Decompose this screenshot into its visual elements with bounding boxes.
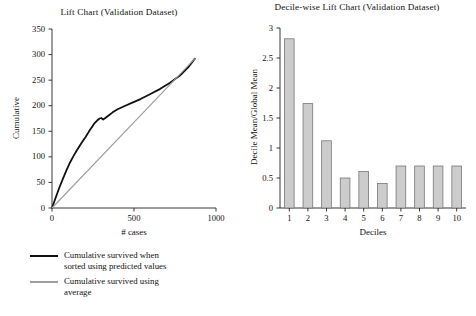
- legend-item-label: Cumulative survived usingaverage: [64, 276, 159, 297]
- decile-bar-1: [284, 39, 294, 208]
- lift-y-tick-200: 200: [0, 100, 45, 110]
- decile-lift-chart-panel: Decile-wise Lift Chart (Validation Datas…: [238, 0, 476, 316]
- lift-chart-legend: Cumulative survived whensorted using pre…: [30, 250, 235, 302]
- decile-bar-4: [340, 178, 350, 208]
- legend-line-predicted-icon: [30, 255, 58, 257]
- lift-x-tick-500: 500: [109, 213, 159, 223]
- decile-bar-3: [322, 141, 332, 208]
- legend-item-label: Cumulative survived whensorted using pre…: [64, 250, 166, 271]
- lift-y-tick-50: 50: [0, 177, 45, 187]
- legend-label-line1: Cumulative survived using: [64, 276, 159, 287]
- lift-y-tick-100: 100: [0, 151, 45, 161]
- decile-y-tick-2.5: 2.5: [238, 53, 273, 63]
- decile-y-tick-1: 1: [238, 143, 273, 153]
- decile-bar-8: [415, 166, 425, 208]
- lift-x-tick-0: 0: [27, 213, 77, 223]
- decile-bar-10: [452, 166, 462, 208]
- legend-label-line1: Cumulative survived when: [64, 250, 166, 261]
- decile-bar-5: [359, 171, 369, 208]
- legend-label-line2: average: [64, 287, 159, 298]
- legend-label-line2: sorted using predicted values: [64, 261, 166, 272]
- figure-root: Lift Chart (Validation Dataset) Cumulati…: [0, 0, 476, 316]
- decile-y-tick-0: 0: [238, 203, 273, 213]
- decile-bar-2: [303, 104, 313, 208]
- lift-curve-average: [52, 59, 195, 208]
- lift-x-tick-1000: 1000: [191, 213, 241, 223]
- lift-y-tick-250: 250: [0, 75, 45, 85]
- decile-bar-7: [396, 166, 406, 208]
- lift-y-tick-0: 0: [0, 203, 45, 213]
- legend-line-average-icon: [30, 281, 58, 283]
- lift-y-tick-300: 300: [0, 49, 45, 59]
- decile-bar-6: [377, 183, 387, 208]
- decile-x-tick-10: 10: [443, 213, 471, 223]
- lift-y-tick-150: 150: [0, 126, 45, 136]
- legend-item-1: Cumulative survived whensorted using pre…: [30, 250, 235, 271]
- decile-y-tick-1.5: 1.5: [238, 113, 273, 123]
- legend-item-2: Cumulative survived usingaverage: [30, 276, 235, 297]
- decile-bar-9: [433, 166, 443, 208]
- decile-y-tick-0.5: 0.5: [238, 173, 273, 183]
- decile-lift-chart-plot: [238, 0, 476, 316]
- decile-y-tick-3: 3: [238, 23, 273, 33]
- lift-y-tick-350: 350: [0, 24, 45, 34]
- decile-y-tick-2: 2: [238, 83, 273, 93]
